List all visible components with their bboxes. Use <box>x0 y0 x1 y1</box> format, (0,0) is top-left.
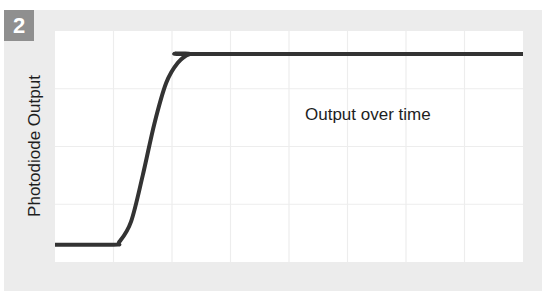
panel-number-badge: 2 <box>4 10 34 41</box>
chart-annotation: Output over time <box>305 105 431 125</box>
line-chart <box>55 31 523 262</box>
grid-lines <box>55 31 523 262</box>
y-axis-label: Photodiode Output <box>25 75 45 217</box>
plot-area <box>55 31 523 262</box>
